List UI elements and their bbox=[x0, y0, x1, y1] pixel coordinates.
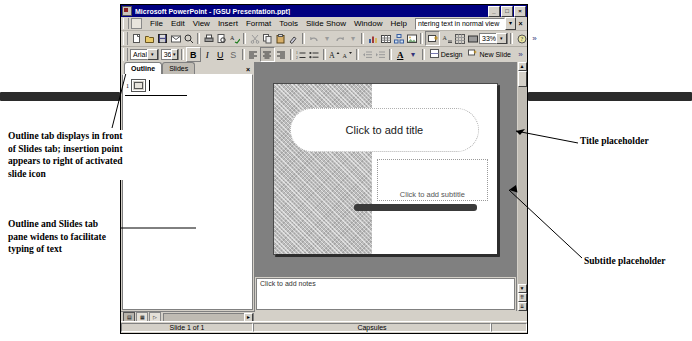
font-color-dropdown-icon[interactable]: ▾ bbox=[407, 48, 420, 61]
increase-font-size-button[interactable]: A bbox=[328, 48, 341, 61]
menu-item-help[interactable]: Help bbox=[386, 19, 410, 28]
font-color-button[interactable]: A bbox=[394, 48, 407, 61]
outline-body[interactable]: 1 bbox=[122, 74, 253, 310]
ask-dropdown-icon[interactable]: ▾ bbox=[505, 17, 516, 30]
menu-item-tools[interactable]: Tools bbox=[275, 19, 302, 28]
insert-diagram-icon[interactable] bbox=[392, 32, 405, 45]
window-title: Microsoft PowerPoint - [GSU Presentation… bbox=[135, 8, 488, 15]
new-icon[interactable] bbox=[130, 32, 143, 45]
undo-icon[interactable] bbox=[307, 32, 320, 45]
format-painter-icon[interactable] bbox=[287, 32, 300, 45]
menu-item-edit[interactable]: Edit bbox=[167, 19, 189, 28]
italic-button[interactable]: I bbox=[201, 48, 214, 61]
font-size-value: 36 bbox=[164, 51, 172, 58]
redo-dropdown-icon[interactable]: ▾ bbox=[346, 32, 359, 45]
minimize-button[interactable]: _ bbox=[488, 6, 500, 17]
mail-icon[interactable] bbox=[169, 32, 182, 45]
scroll-up-icon[interactable]: ▲ bbox=[518, 62, 527, 71]
annotation-pane-widens: Outline and Slides tab pane widens to fa… bbox=[8, 218, 116, 256]
font-size-dropdown-icon[interactable]: ▾ bbox=[171, 49, 177, 60]
design-button[interactable]: Design bbox=[427, 49, 466, 60]
bullets-button[interactable] bbox=[308, 48, 321, 61]
ask-a-question-input[interactable]: ntering text in normal view bbox=[415, 18, 505, 30]
font-name-combo[interactable]: Arial ▾ bbox=[130, 49, 159, 60]
close-button[interactable]: × bbox=[514, 6, 526, 17]
decrease-indent-button[interactable] bbox=[361, 48, 374, 61]
formatting-toolbar-grip[interactable] bbox=[123, 48, 128, 61]
svg-text:A: A bbox=[329, 51, 335, 60]
document-close-icon[interactable]: × bbox=[516, 18, 525, 29]
new-slide-button[interactable]: New Slide bbox=[465, 49, 514, 60]
title-bar: Microsoft PowerPoint - [GSU Presentation… bbox=[121, 5, 527, 17]
slide-pane: Click to add title Click to add subtitle… bbox=[255, 62, 516, 311]
align-left-button[interactable] bbox=[247, 48, 260, 61]
decrease-font-size-button[interactable]: A bbox=[341, 48, 354, 61]
tab-outline[interactable]: Outline bbox=[124, 62, 162, 74]
underline-button[interactable]: U bbox=[214, 48, 227, 61]
slide-thumbnail-icon[interactable] bbox=[131, 79, 146, 92]
formatting-more-buttons-icon[interactable]: » bbox=[514, 48, 527, 61]
subtitle-placeholder[interactable]: Click to add subtitle bbox=[377, 159, 489, 202]
scroll-down-icon[interactable]: ▼ bbox=[518, 284, 527, 293]
slide-editing-area[interactable]: Click to add title Click to add subtitle bbox=[255, 62, 516, 276]
insert-table-icon[interactable] bbox=[379, 32, 392, 45]
print-icon[interactable] bbox=[202, 32, 215, 45]
zoom-dropdown-icon[interactable]: ▾ bbox=[496, 33, 507, 44]
show-formatting-icon[interactable] bbox=[453, 32, 466, 45]
spelling-icon[interactable]: A bbox=[228, 32, 241, 45]
menu-item-window[interactable]: Window bbox=[350, 19, 386, 28]
menu-bar-grip[interactable] bbox=[123, 18, 129, 29]
copy-icon[interactable] bbox=[261, 32, 274, 45]
previous-slide-icon[interactable]: ⇈ bbox=[518, 293, 527, 302]
insert-clipart-icon[interactable] bbox=[405, 32, 418, 45]
document-control-icon[interactable] bbox=[131, 18, 142, 29]
notes-placeholder[interactable]: Click to add notes bbox=[256, 278, 515, 310]
font-name-dropdown-icon[interactable]: ▾ bbox=[147, 49, 158, 60]
vertical-scrollbar[interactable]: ▲ ▼ ⇈ ⇊ bbox=[516, 62, 527, 311]
search-icon[interactable] bbox=[182, 32, 195, 45]
text-shadow-button[interactable]: S bbox=[227, 48, 240, 61]
menu-item-format[interactable]: Format bbox=[242, 19, 275, 28]
menu-item-file[interactable]: File bbox=[146, 19, 167, 28]
tab-slides[interactable]: Slides bbox=[162, 62, 195, 74]
status-slide-count: Slide 1 of 1 bbox=[121, 323, 253, 332]
redo-icon[interactable] bbox=[333, 32, 346, 45]
scroll-thumb[interactable] bbox=[518, 71, 527, 87]
save-icon[interactable] bbox=[156, 32, 169, 45]
insert-chart-icon[interactable] bbox=[366, 32, 379, 45]
zoom-combo[interactable]: 33% ▾ bbox=[479, 33, 508, 44]
undo-dropdown-icon[interactable]: ▾ bbox=[320, 32, 333, 45]
toolbar-separator bbox=[302, 33, 305, 44]
help-icon[interactable]: ? bbox=[515, 32, 528, 45]
page-rule-right bbox=[528, 92, 692, 101]
title-placeholder[interactable]: Click to add title bbox=[290, 108, 480, 152]
increase-indent-button[interactable] bbox=[374, 48, 387, 61]
cut-icon[interactable] bbox=[248, 32, 261, 45]
print-preview-icon[interactable] bbox=[215, 32, 228, 45]
toolbar-separator bbox=[389, 49, 392, 60]
next-slide-icon[interactable]: ⇊ bbox=[518, 302, 527, 311]
show-hide-grid-icon[interactable] bbox=[466, 32, 479, 45]
menu-item-insert[interactable]: Insert bbox=[214, 19, 242, 28]
close-pane-icon[interactable]: × bbox=[246, 66, 250, 73]
open-icon[interactable] bbox=[143, 32, 156, 45]
menu-item-slide-show[interactable]: Slide Show bbox=[302, 19, 350, 28]
maximize-button[interactable]: □ bbox=[501, 6, 513, 17]
outline-underline-rule bbox=[125, 95, 187, 96]
align-center-button[interactable] bbox=[260, 47, 275, 62]
font-size-combo[interactable]: 36 ▾ bbox=[161, 49, 179, 60]
new-slide-icon[interactable] bbox=[425, 31, 440, 46]
paste-icon[interactable] bbox=[274, 32, 287, 45]
toolbar-more-buttons-icon[interactable]: » bbox=[528, 32, 541, 45]
expand-all-icon[interactable]: A bbox=[440, 32, 453, 45]
numbering-button[interactable]: 12 bbox=[295, 48, 308, 61]
bold-button[interactable]: B bbox=[186, 47, 201, 62]
align-right-button[interactable] bbox=[275, 48, 288, 61]
powerpoint-app-icon bbox=[122, 6, 132, 16]
slide-canvas[interactable]: Click to add title Click to add subtitle bbox=[273, 83, 498, 255]
standard-toolbar-grip[interactable] bbox=[123, 32, 128, 45]
outline-row[interactable]: 1 bbox=[123, 75, 252, 92]
menu-item-view[interactable]: View bbox=[189, 19, 214, 28]
font-name-value: Arial bbox=[133, 51, 147, 58]
scroll-track[interactable] bbox=[518, 87, 527, 284]
